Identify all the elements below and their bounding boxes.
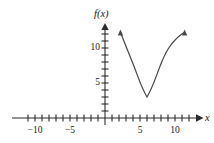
y-tick-label-5: 5 (88, 78, 100, 88)
y-axis-label: f(x) (94, 9, 109, 20)
x-axis-label: x (205, 113, 210, 124)
graph-figure: −10 −5 5 10 5 10 f(x) x (0, 0, 214, 143)
coordinate-plane (0, 0, 214, 143)
curve-right-arrow-icon (182, 30, 187, 36)
x-tick-label-10: 10 (170, 126, 180, 136)
x-tick-label-neg10: −10 (28, 126, 43, 136)
x-tick-label-neg5: −5 (65, 126, 75, 136)
x-tick-label-5: 5 (138, 126, 143, 136)
parabola-curve (120, 32, 183, 97)
y-tick-label-10: 10 (85, 43, 100, 53)
x-axis-arrow-icon (196, 114, 204, 122)
y-axis-arrow-icon (101, 23, 108, 30)
curve-left-arrow-icon (118, 30, 123, 36)
